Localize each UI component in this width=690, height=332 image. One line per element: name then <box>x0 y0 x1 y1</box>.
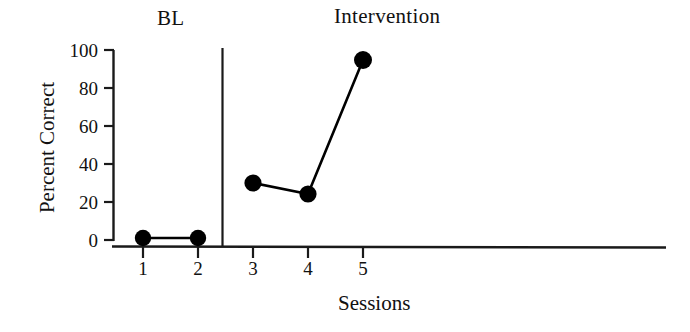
intervention-series-line <box>253 60 363 194</box>
data-point-session-1 <box>135 230 151 246</box>
y-tick-label-100: 100 <box>52 40 98 62</box>
data-point-session-4 <box>299 185 316 202</box>
x-tick-label-2: 2 <box>185 258 211 280</box>
single-case-design-chart: BL Intervention 100 80 60 40 20 0 1 2 3 … <box>0 0 690 332</box>
y-axis-title: Percent Correct <box>35 68 60 228</box>
x-axis-group <box>112 246 666 258</box>
y-tick-label-0: 0 <box>52 230 98 252</box>
x-tick-label-3: 3 <box>240 258 266 280</box>
data-point-session-5 <box>354 51 372 69</box>
x-tick-label-5: 5 <box>350 258 376 280</box>
phase-label-intervention: Intervention <box>334 4 440 29</box>
data-point-session-3 <box>244 174 261 191</box>
phase-label-baseline: BL <box>157 6 184 31</box>
x-tick-label-1: 1 <box>130 258 156 280</box>
chart-canvas <box>0 0 690 332</box>
x-axis-title: Sessions <box>338 291 410 316</box>
x-axis-line <box>112 247 666 248</box>
x-tick-label-4: 4 <box>295 258 321 280</box>
y-axis-group <box>104 50 114 241</box>
data-point-session-2 <box>190 230 206 246</box>
